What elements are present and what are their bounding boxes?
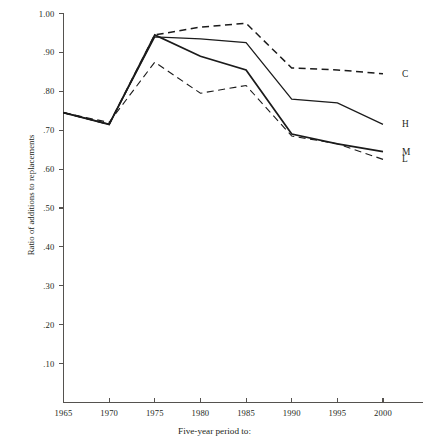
x-tick-marks — [109, 398, 383, 403]
x-tick-label: 1995 — [328, 408, 346, 418]
x-tick-label: 1975 — [146, 408, 164, 418]
y-tick-marks — [59, 14, 64, 364]
series-line-l — [64, 62, 384, 159]
y-tick-label: .30 — [0, 281, 55, 291]
y-tick-label: 1.00 — [0, 9, 55, 19]
y-tick-label: .90 — [0, 47, 55, 57]
plot-canvas — [0, 0, 429, 441]
y-axis-title: Ratio of additions to replacements — [26, 115, 36, 275]
series-label-l: L — [402, 154, 408, 164]
line-chart: 1.00.90.80.70.60.50.40.30.20.10 19651970… — [0, 0, 429, 441]
x-tick-label: 1985 — [237, 408, 255, 418]
series-lines — [64, 23, 384, 159]
series-line-m — [64, 35, 384, 152]
x-tick-label: 2000 — [374, 408, 392, 418]
series-line-c — [64, 23, 384, 124]
series-line-h — [64, 37, 384, 125]
x-tick-label: 1970 — [100, 408, 118, 418]
series-label-h: H — [402, 119, 409, 129]
y-tick-label: .20 — [0, 320, 55, 330]
x-tick-label: 1965 — [55, 408, 73, 418]
y-tick-label: .10 — [0, 359, 55, 369]
x-tick-label: 1980 — [192, 408, 210, 418]
y-tick-label: .80 — [0, 86, 55, 96]
x-axis-title: Five-year period to: — [0, 426, 429, 436]
series-label-c: C — [402, 69, 408, 79]
x-tick-label: 1990 — [283, 408, 301, 418]
